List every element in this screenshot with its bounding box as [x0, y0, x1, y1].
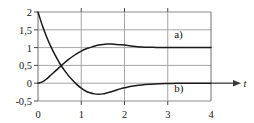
series-label-b: b): [174, 82, 184, 95]
x-axis-name: t: [244, 78, 248, 89]
x-tick-label-4: 4: [208, 109, 214, 120]
chart-figure: 2 1,5 1 0,5 0 -0,5 0 1 2 3 4 a) b) t: [0, 0, 254, 123]
t-axis-arrow: [211, 80, 241, 87]
y-tick-label-2: 2: [27, 7, 32, 18]
y-tick-label-minus0p5: -0,5: [15, 96, 32, 107]
x-tick-label-0: 0: [35, 109, 40, 120]
y-tick-label-0: 0: [27, 78, 32, 89]
x-tick-label-2: 2: [122, 109, 127, 120]
y-axis-ticks: [34, 12, 38, 101]
x-tick-label-3: 3: [165, 109, 170, 120]
x-tick-label-1: 1: [79, 109, 84, 120]
step-response-plot: 2 1,5 1 0,5 0 -0,5 0 1 2 3 4 a) b) t: [0, 0, 254, 123]
series-label-a: a): [174, 28, 183, 41]
y-tick-label-1p5: 1,5: [19, 25, 32, 36]
t-axis-arrowhead: [233, 80, 241, 87]
y-tick-label-0p5: 0,5: [19, 60, 32, 71]
y-tick-label-1: 1: [27, 43, 32, 54]
